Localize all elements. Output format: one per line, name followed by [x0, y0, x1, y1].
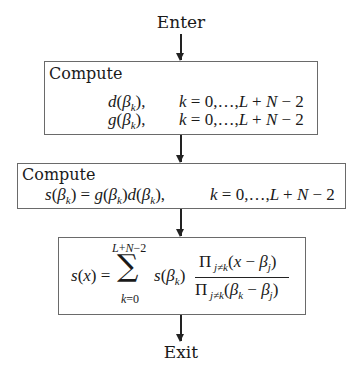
- arrow-step2-to-step3: [180, 209, 182, 236]
- step2-box: Compute s(βk) = g(βk)d(βk), k = 0,…,L + …: [17, 163, 346, 209]
- step3-denominator: Π j≠k(βk − βj): [195, 280, 278, 301]
- step1-box: Compute d(βk), k = 0,…,L + N − 2 g(βk), …: [44, 61, 318, 135]
- step1-title: Compute: [49, 64, 123, 83]
- step3-lhs: s(x) =: [71, 266, 110, 286]
- step3-box: s(x) = L+N−2 ∑ k=0 s(βk) Π j≠k(x − βj) Π…: [58, 237, 306, 315]
- step3-term: s(βk): [154, 266, 185, 287]
- sigma-icon: ∑: [117, 248, 138, 283]
- step1-range-g: k = 0,…,L + N − 2: [179, 110, 304, 130]
- arrow-step3-to-exit: [180, 315, 182, 341]
- end-label: Exit: [131, 342, 231, 362]
- arrow-enter-to-step1: [180, 34, 182, 60]
- start-label: Enter: [131, 12, 231, 32]
- step2-expr: s(βk) = g(βk)d(βk),: [45, 185, 165, 206]
- step2-range: k = 0,…,L + N − 2: [210, 185, 335, 205]
- step1-range-d: k = 0,…,L + N − 2: [179, 92, 304, 112]
- step3-sum-lower: k=0: [121, 292, 139, 307]
- arrow-step1-to-step2: [180, 135, 182, 162]
- step2-title: Compute: [22, 165, 96, 184]
- fraction-line: [195, 277, 289, 278]
- step1-expr-g: g(βk),: [108, 110, 145, 131]
- step3-numerator: Π j≠k(x − βj): [199, 252, 277, 273]
